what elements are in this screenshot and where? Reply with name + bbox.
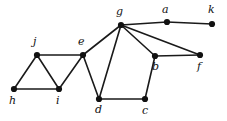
graph-vertex: [34, 52, 40, 58]
graph-vertex: [118, 22, 124, 28]
graph-edge: [59, 55, 83, 89]
graph-vertex: [80, 52, 86, 58]
vertex-label-i: i: [56, 95, 60, 106]
graph-vertex: [11, 86, 17, 92]
vertex-label-d: d: [95, 104, 102, 115]
graph-canvas: [0, 0, 227, 121]
vertex-label-k: k: [208, 4, 215, 15]
graph-vertex: [209, 21, 215, 27]
vertex-label-f: f: [197, 61, 201, 72]
graph-edge: [155, 55, 200, 56]
graph-edge: [121, 25, 155, 56]
graph-vertex: [152, 53, 158, 59]
graph-vertex: [142, 96, 148, 102]
vertex-label-j: j: [33, 36, 36, 47]
graph-edge: [121, 25, 200, 55]
graph-vertex: [197, 52, 203, 58]
vertex-label-b: b: [152, 61, 159, 72]
graph-edge: [14, 55, 37, 89]
graph-edge: [121, 22, 167, 25]
graph-vertex: [56, 86, 62, 92]
graph-edge: [37, 55, 59, 89]
graph-vertex: [96, 96, 102, 102]
graph-diagram: gakjebfhidc: [0, 0, 227, 121]
vertex-label-h: h: [9, 95, 16, 106]
graph-edge: [83, 25, 121, 55]
graph-edge: [167, 22, 212, 24]
graph-edge: [99, 25, 121, 99]
vertex-label-e: e: [78, 36, 85, 47]
vertex-label-a: a: [162, 4, 169, 15]
edges-layer: [14, 22, 212, 99]
vertex-label-g: g: [116, 6, 123, 17]
graph-edge: [83, 55, 99, 99]
graph-vertex: [164, 19, 170, 25]
vertex-label-c: c: [142, 105, 148, 116]
